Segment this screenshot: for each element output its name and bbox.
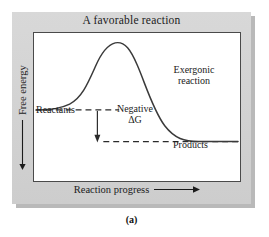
arrow-up-icon — [18, 118, 27, 170]
delta-g-label: Negative ΔG — [104, 104, 166, 126]
energy-curve — [36, 43, 238, 142]
exergonic-label-line2: reaction — [157, 75, 231, 86]
figure-caption: (a) — [12, 214, 251, 225]
delta-g-label-line2: ΔG — [104, 115, 166, 126]
delta-g-label-line1: Negative — [117, 103, 153, 114]
exergonic-label-line1: Exergonic — [174, 64, 215, 75]
exergonic-reaction-label: Exergonic reaction — [157, 64, 231, 87]
delta-g-arrow-icon — [94, 111, 100, 143]
arrow-right-icon — [154, 185, 200, 194]
x-axis-label-text: Reaction progress — [74, 184, 150, 195]
y-axis-label: Free energy — [14, 54, 30, 170]
x-axis-label: Reaction progress — [33, 184, 241, 195]
products-label: Products — [173, 140, 208, 151]
figure-title: A favorable reaction — [12, 14, 251, 26]
plot-panel: Reactants Products Negative ΔG Exergonic… — [33, 32, 241, 182]
y-axis-label-text: Free energy — [17, 65, 28, 115]
figure-container: A favorable reaction Reactants Products … — [0, 0, 269, 237]
reactants-label: Reactants — [36, 105, 75, 116]
